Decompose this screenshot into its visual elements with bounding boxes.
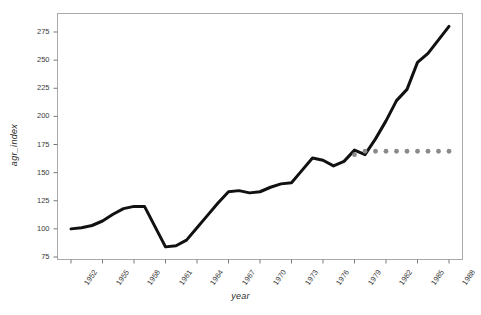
y-tick-label: 275 [24,27,50,36]
plot-frame [58,14,463,260]
y-axis-ticks [54,32,58,257]
y-axis-label: agr_index [9,110,19,180]
y-tick-label: 125 [24,196,50,205]
y-tick-label: 200 [24,111,50,120]
series-dot [405,149,410,154]
series-dot [363,149,368,154]
y-tick-label: 175 [24,140,50,149]
series-dot [447,149,452,154]
x-axis-label: year [0,291,481,301]
y-tick-label: 250 [24,55,50,64]
series-dot [394,149,399,154]
series-dot [426,149,431,154]
series-dot [415,149,420,154]
line-chart-canvas [0,0,481,315]
chart-figure: agr_index year 7510012515017520022525027… [0,0,481,315]
series-dot [373,149,378,154]
x-axis-ticks [71,260,449,264]
y-tick-label: 225 [24,83,50,92]
y-tick-label: 150 [24,168,50,177]
y-tick-label: 100 [24,224,50,233]
y-tick-label: 75 [24,252,50,261]
series-dot [384,149,389,154]
series-dot [352,152,357,157]
series-dot [436,149,441,154]
